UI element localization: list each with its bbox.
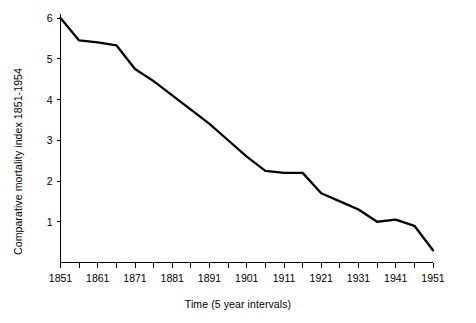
- x-tick-label: 1871: [123, 272, 147, 284]
- x-tick-label: 1891: [198, 272, 222, 284]
- mortality-index-series-line: [61, 18, 434, 250]
- x-tick-label: 1851: [49, 272, 73, 284]
- x-tick-label: 1861: [86, 272, 110, 284]
- x-axis-tick-labels: 1851186118711881189119011911192119311941…: [49, 272, 445, 284]
- x-tick-label: 1881: [161, 272, 185, 284]
- x-tick-label: 1921: [310, 272, 334, 284]
- plot-area: 1851186118711881189119011911192119311941…: [0, 0, 476, 323]
- x-axis-title: Time (5 year intervals): [0, 298, 476, 310]
- y-tick-label: 1: [47, 216, 53, 228]
- x-tick-label: 1911: [273, 272, 296, 284]
- y-tick-label: 3: [47, 134, 53, 146]
- y-tick-label: 6: [47, 12, 53, 24]
- x-tick-label: 1931: [347, 272, 371, 284]
- y-tick-label: 4: [47, 94, 53, 106]
- x-tick-label: 1951: [421, 272, 445, 284]
- mortality-index-line-chart: Comparative mortality index 1851-1954 18…: [0, 0, 476, 323]
- x-tick-label: 1941: [384, 272, 408, 284]
- x-tick-label: 1901: [235, 272, 259, 284]
- x-axis-ticks: [61, 263, 434, 268]
- y-axis-ticks: [57, 18, 61, 222]
- y-tick-label: 2: [47, 175, 53, 187]
- y-axis-tick-labels: 123456: [47, 12, 53, 228]
- y-tick-label: 5: [47, 53, 53, 65]
